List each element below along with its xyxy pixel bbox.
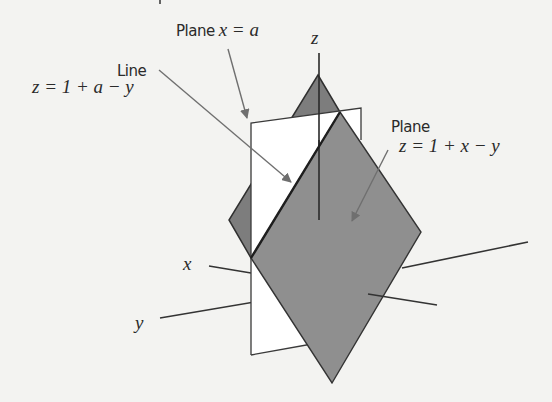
diagram-canvas: [0, 0, 552, 402]
plane-equation-label: z = 1 + x − y: [399, 135, 500, 157]
plane-name-label: Plane: [391, 118, 430, 136]
y-axis-label: y: [135, 312, 143, 334]
arrow-plane-xa: [228, 49, 247, 118]
plane-xa-name: Plane: [176, 22, 215, 40]
plane-xa-label: Plane x = a: [176, 19, 259, 41]
z-axis-label: z: [311, 27, 318, 49]
x-axis-label: x: [183, 253, 191, 275]
plane-xa-equation: x = a: [219, 19, 259, 40]
line-equation-label: z = 1 + a − y: [32, 76, 134, 98]
y-axis-front: [402, 242, 528, 268]
x-axis-back: [209, 266, 251, 273]
